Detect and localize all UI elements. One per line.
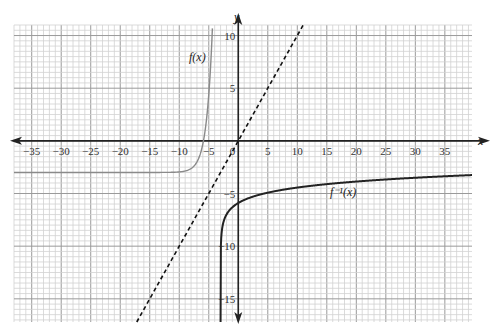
x-tick-label: −20	[112, 145, 130, 157]
chart: −35−30−25−20−15−10−55101520253035105−5−1…	[0, 0, 494, 335]
x-tick-label: 10	[292, 145, 304, 157]
x-tick-label: −35	[23, 145, 41, 157]
x-tick-label: −10	[171, 145, 189, 157]
x-tick-label: 15	[321, 145, 333, 157]
label-f-inverse: f⁻¹(x)	[330, 185, 356, 199]
x-tick-label: −30	[53, 145, 71, 157]
x-axis-label: x	[477, 134, 484, 148]
x-tick-label: −25	[82, 145, 100, 157]
label-f: f(x)	[189, 50, 206, 64]
x-tick-label: 35	[439, 145, 451, 157]
x-tick-label: 30	[410, 145, 422, 157]
grid	[14, 25, 472, 322]
y-tick-label: 10	[224, 30, 236, 42]
x-tick-label: 5	[265, 145, 271, 157]
x-tick-label: 20	[351, 145, 363, 157]
x-tick-label: −15	[141, 145, 159, 157]
y-axis-label: y	[233, 10, 240, 24]
x-tick-label: 25	[380, 145, 392, 157]
y-tick-label: 5	[230, 82, 236, 94]
x-tick-label: −5	[203, 145, 215, 157]
y-tick-label: −5	[224, 188, 236, 200]
